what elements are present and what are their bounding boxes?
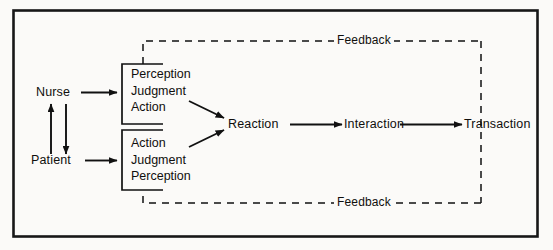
patient-step-action: Action (131, 135, 191, 152)
nurse-step-judgment: Judgment (131, 83, 191, 100)
diagram-figure: Nurse Patient Perception Judgment Action… (0, 0, 553, 250)
patient-process-box: Action Judgment Perception (131, 135, 191, 185)
outcome-interaction-label: Interaction (344, 117, 404, 132)
feedback-top-path (143, 41, 481, 64)
patient-step-perception: Perception (131, 168, 191, 185)
feedback-bottom-label: Feedback (334, 195, 394, 210)
arrow-patient-process-to-reaction (189, 130, 224, 147)
actor-nurse-label: Nurse (36, 85, 70, 100)
patient-step-judgment: Judgment (131, 152, 191, 169)
arrow-nurse-process-to-reaction (189, 101, 224, 118)
outcome-reaction-label: Reaction (228, 117, 279, 132)
nurse-process-box: Perception Judgment Action (131, 66, 191, 116)
feedback-top-label: Feedback (334, 33, 394, 48)
outcome-transaction-label: Transaction (464, 117, 531, 132)
actor-patient-label: Patient (31, 153, 71, 168)
nurse-step-perception: Perception (131, 66, 191, 83)
nurse-step-action: Action (131, 99, 191, 116)
feedback-bottom-path (143, 190, 481, 203)
